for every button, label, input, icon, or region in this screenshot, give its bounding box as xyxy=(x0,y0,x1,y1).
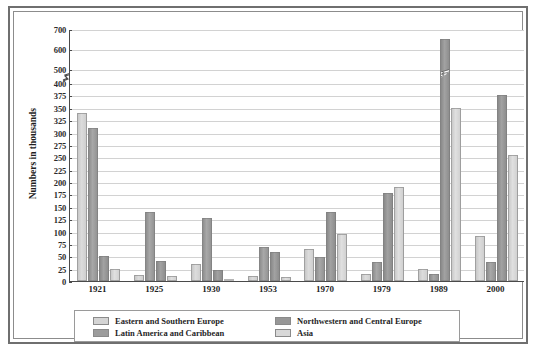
bar[interactable] xyxy=(418,269,428,281)
x-axis-tick-label: 1921 xyxy=(69,284,126,294)
y-axis-tick-mark xyxy=(69,257,72,258)
bar[interactable] xyxy=(77,113,87,281)
figure-frame: Numbers in thousands 0255075100125150175… xyxy=(8,6,528,344)
y-axis-tick-mark xyxy=(69,220,72,221)
bar-break-icon xyxy=(441,69,449,80)
bar[interactable] xyxy=(145,212,155,281)
chart-legend: Eastern and Southern EuropeNorthwestern … xyxy=(74,310,460,342)
y-axis-tick-label: 325 xyxy=(54,117,66,126)
y-axis-tick-label: 75 xyxy=(58,241,66,250)
legend-item[interactable]: Asia xyxy=(275,328,313,338)
x-axis-tick-label: 1979 xyxy=(353,284,410,294)
bar[interactable] xyxy=(372,262,382,281)
y-axis-tick-mark xyxy=(69,270,72,271)
bar[interactable] xyxy=(259,247,269,281)
bar[interactable] xyxy=(270,252,280,281)
y-axis-tick-label: 375 xyxy=(54,92,66,101)
bar[interactable] xyxy=(326,212,336,281)
x-axis-tick-label: 1970 xyxy=(297,284,354,294)
bar-group xyxy=(468,30,525,281)
y-axis-tick-label: 250 xyxy=(54,154,66,163)
y-axis-tick-mark xyxy=(69,109,72,110)
y-axis-tick-mark xyxy=(69,50,72,51)
bar[interactable] xyxy=(361,274,371,281)
bar[interactable] xyxy=(394,187,404,281)
bar-group xyxy=(354,30,411,281)
bar[interactable] xyxy=(383,193,393,281)
bar[interactable] xyxy=(429,274,439,281)
y-axis-tick-mark xyxy=(69,30,72,31)
y-axis-tick-mark xyxy=(69,171,72,172)
y-axis-tick-mark xyxy=(69,245,72,246)
bar[interactable] xyxy=(497,95,507,281)
bar[interactable] xyxy=(156,261,166,281)
y-axis-tick-label: 200 xyxy=(54,179,66,188)
legend-swatch xyxy=(275,329,291,337)
y-axis-tick-mark xyxy=(69,146,72,147)
y-axis-tick-labels: 0255075100125150175200225250275300325350… xyxy=(34,30,66,282)
y-axis-tick-label: 100 xyxy=(54,229,66,238)
bar[interactable] xyxy=(281,277,291,281)
legend-swatch xyxy=(93,317,109,325)
legend-swatch xyxy=(93,329,109,337)
legend-item[interactable]: Latin America and Caribbean xyxy=(93,328,224,338)
bar-group xyxy=(70,30,127,281)
legend-item[interactable]: Eastern and Southern Europe xyxy=(93,316,224,326)
legend-item[interactable]: Northwestern and Central Europe xyxy=(275,316,422,326)
y-axis-tick-mark xyxy=(69,96,72,97)
legend-label: Northwestern and Central Europe xyxy=(297,316,422,326)
bar[interactable] xyxy=(508,155,518,281)
y-axis-tick-label: 300 xyxy=(54,130,66,139)
bar[interactable] xyxy=(167,276,177,281)
legend-label: Eastern and Southern Europe xyxy=(115,316,224,326)
y-axis-tick-label: 700 xyxy=(54,26,66,35)
x-axis-tick-label: 1989 xyxy=(410,284,467,294)
y-axis-tick-mark xyxy=(69,233,72,234)
bar-group xyxy=(184,30,241,281)
y-axis-tick-label: 350 xyxy=(54,105,66,114)
y-axis-tick-label: 0 xyxy=(62,278,66,287)
x-axis-tick-labels: 19211925193019531970197919892000 xyxy=(69,284,524,300)
x-axis-tick-label: 2000 xyxy=(467,284,524,294)
bar[interactable] xyxy=(315,257,325,281)
y-axis-tick-mark xyxy=(69,195,72,196)
y-axis-tick-mark xyxy=(69,183,72,184)
bar[interactable] xyxy=(440,39,450,281)
bar[interactable] xyxy=(213,270,223,281)
legend-swatch xyxy=(275,317,291,325)
bar[interactable] xyxy=(475,236,485,281)
x-axis-tick-label: 1953 xyxy=(240,284,297,294)
bar-group xyxy=(298,30,355,281)
y-axis-tick-mark xyxy=(69,70,72,71)
y-axis-tick-mark xyxy=(69,84,72,85)
bar[interactable] xyxy=(134,275,144,281)
bar-group xyxy=(127,30,184,281)
bar[interactable] xyxy=(191,264,201,281)
y-axis-tick-label: 50 xyxy=(58,253,66,262)
bar[interactable] xyxy=(248,276,258,281)
y-axis-tick-label: 600 xyxy=(54,46,66,55)
bar[interactable] xyxy=(337,234,347,281)
bar[interactable] xyxy=(224,279,234,281)
bar[interactable] xyxy=(202,218,212,281)
y-axis-tick-label: 275 xyxy=(54,142,66,151)
x-axis-tick-label: 1930 xyxy=(183,284,240,294)
x-axis-tick-label: 1925 xyxy=(126,284,183,294)
bar-group xyxy=(411,30,468,281)
bar[interactable] xyxy=(486,262,496,281)
y-axis-tick-mark xyxy=(69,208,72,209)
bar[interactable] xyxy=(110,269,120,281)
bar[interactable] xyxy=(99,256,109,281)
bar[interactable] xyxy=(304,249,314,281)
y-axis-tick-label: 125 xyxy=(54,216,66,225)
y-axis-tick-mark xyxy=(69,282,72,283)
legend-label: Asia xyxy=(297,328,313,338)
bar-group xyxy=(241,30,298,281)
y-axis-tick-label: 150 xyxy=(54,204,66,213)
figure-frame-inner: Numbers in thousands 0255075100125150175… xyxy=(13,11,523,339)
y-axis-tick-mark xyxy=(69,121,72,122)
y-axis-tick-mark xyxy=(69,134,72,135)
bar[interactable] xyxy=(88,128,98,281)
y-axis-tick-label: 25 xyxy=(58,266,66,275)
bar[interactable] xyxy=(451,108,461,281)
